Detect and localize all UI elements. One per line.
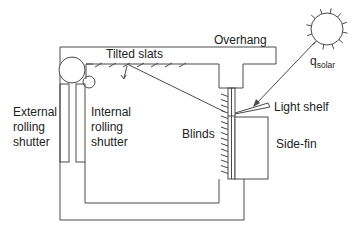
- sun-ray: [339, 40, 343, 43]
- light-shelf: [235, 103, 270, 114]
- slat-reflected-ray: [127, 64, 225, 112]
- blind-slat: [221, 160, 228, 163]
- blind-slat: [221, 133, 228, 136]
- blind-slat: [221, 94, 228, 97]
- sun-ray: [330, 8, 331, 13]
- sun-ray: [332, 44, 334, 49]
- inner-wall: [85, 162, 219, 203]
- label-internal-shutter-2: rolling: [91, 120, 123, 134]
- sun-ray: [338, 13, 341, 17]
- label-blinds: Blinds: [182, 127, 215, 141]
- sun-ray: [307, 34, 312, 36]
- slat-down-arrow-head: [121, 75, 126, 79]
- external-shutter-roll: [59, 57, 85, 83]
- sun-ray: [311, 15, 315, 18]
- label-external-shutter-3: shutter: [13, 135, 50, 149]
- blind-slat: [221, 155, 228, 158]
- label-light-shelf: Light shelf: [274, 100, 329, 114]
- sun-ray: [306, 25, 311, 26]
- blind-slat: [221, 105, 228, 108]
- blind-slat: [221, 122, 228, 125]
- shading-devices-diagram: Tilted slats Overhang qsolar Light shelf…: [0, 0, 357, 232]
- sun-ray: [323, 45, 324, 50]
- label-external-shutter-2: rolling: [13, 120, 45, 134]
- blind-slat: [221, 116, 228, 119]
- blind-slat: [221, 144, 228, 147]
- sun-ray: [343, 32, 348, 33]
- label-internal-shutter-1: Internal: [91, 105, 131, 119]
- label-q-solar: qsolar: [310, 54, 335, 70]
- label-overhang: Overhang: [214, 33, 267, 47]
- sun-ray: [320, 9, 322, 14]
- blind-slat: [221, 166, 228, 169]
- label-tilted-slats: Tilted slats: [106, 47, 163, 61]
- blind-slat: [221, 100, 228, 103]
- label-internal-shutter-3: shutter: [91, 135, 128, 149]
- external-shutter-rail: [60, 84, 69, 162]
- blinds: [221, 94, 228, 174]
- solar-ray: [256, 42, 315, 104]
- sun-ray: [342, 22, 347, 24]
- blind-slat: [221, 127, 228, 130]
- sun-icon: [306, 8, 347, 49]
- blind-slat: [221, 138, 228, 141]
- blind-slat: [221, 149, 228, 152]
- blind-slat: [221, 171, 228, 174]
- label-external-shutter-1: External: [13, 105, 57, 119]
- label-side-fin: Side-fin: [276, 137, 317, 151]
- internal-shutter-rail: [76, 84, 85, 162]
- side-fin: [235, 117, 268, 179]
